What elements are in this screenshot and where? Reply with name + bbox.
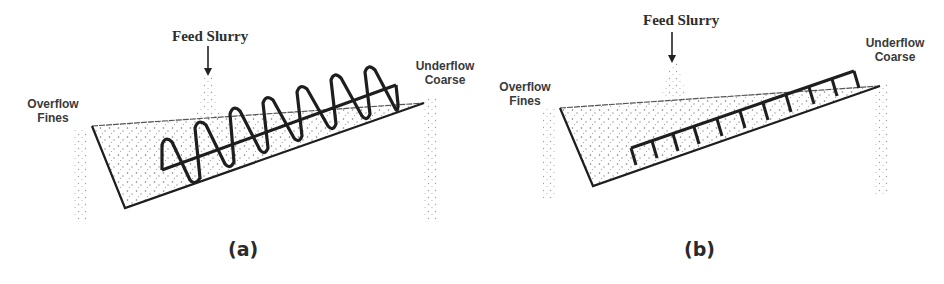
underflow-label: Underflow Coarse bbox=[410, 59, 480, 87]
caption-a: (a) bbox=[228, 238, 258, 260]
arrow-head-icon bbox=[204, 68, 212, 76]
overflow-stream bbox=[73, 128, 87, 220]
feed-slurry-label: Feed Slurry bbox=[643, 12, 719, 28]
overflow-label-line2: Fines bbox=[22, 111, 84, 125]
overflow-label: Overflow Fines bbox=[22, 97, 84, 125]
overflow-label: Overflow Fines bbox=[494, 80, 556, 108]
underflow-label: Underflow Coarse bbox=[860, 36, 930, 64]
overflow-label-line1: Overflow bbox=[494, 80, 556, 94]
panel-rake-classifier: Feed Slurry Overflow Fines Underflow Coa… bbox=[472, 0, 944, 284]
underflow-label-line1: Underflow bbox=[860, 36, 930, 50]
feed-stream bbox=[196, 75, 220, 118]
underflow-label-line2: Coarse bbox=[410, 73, 480, 87]
underflow-stream bbox=[423, 97, 437, 221]
underflow-label-line2: Coarse bbox=[860, 50, 930, 64]
tank-slurry bbox=[560, 86, 880, 186]
caption-b: (b) bbox=[684, 238, 715, 260]
feed-slurry-label: Feed Slurry bbox=[172, 28, 248, 44]
feed-stream bbox=[661, 62, 686, 98]
arrow-head-icon bbox=[668, 55, 676, 63]
tank-slurry bbox=[92, 103, 424, 208]
underflow-stream bbox=[875, 82, 889, 194]
overflow-stream bbox=[543, 108, 557, 198]
panel-spiral-classifier: Feed Slurry Overflow Fines Underflow Coa… bbox=[0, 0, 472, 284]
overflow-label-line1: Overflow bbox=[22, 97, 84, 111]
overflow-label-line2: Fines bbox=[494, 94, 556, 108]
underflow-label-line1: Underflow bbox=[410, 59, 480, 73]
